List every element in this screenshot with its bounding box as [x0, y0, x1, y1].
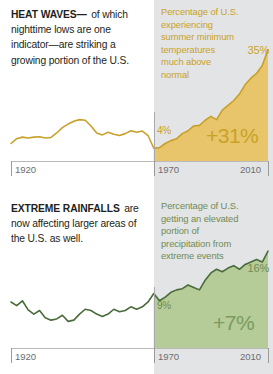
heat-kicker: HEAT WAVES— [11, 9, 87, 20]
rain-1970-divider [154, 287, 155, 348]
heat-axis-label-1920: 1920 [15, 164, 36, 175]
heat-axis-rule [11, 161, 269, 162]
rain-end-value-label: 16% [248, 262, 269, 274]
heat-tick-2010 [268, 161, 269, 176]
rain-axis-label-2010: 2010 [240, 351, 261, 362]
rain-change-callout: +7% [213, 311, 254, 335]
rain-tick-1920 [11, 348, 12, 363]
heat-axis: 1920 1970 2010 [0, 161, 273, 187]
rain-axis-rule [11, 348, 269, 349]
rain-caption: Percentage of U.S. getting an elevated p… [161, 200, 239, 263]
rain-axis: 1920 1970 2010 [0, 348, 273, 374]
rain-axis-label-1970: 1970 [158, 351, 179, 362]
heat-tick-1920 [11, 161, 12, 176]
rain-tick-1970 [154, 348, 155, 363]
rain-headline: EXTREME RAINFALLS are now affecting larg… [11, 200, 147, 246]
heat-1970-divider [154, 112, 155, 161]
heat-axis-label-2010: 2010 [240, 164, 261, 175]
heat-start-value-label: 4% [157, 125, 171, 136]
heat-axis-label-1970: 1970 [158, 164, 179, 175]
rain-kicker: EXTREME RAINFALLS [11, 203, 120, 214]
heat-tick-1970 [154, 161, 155, 176]
rain-start-value-label: 9% [157, 300, 171, 311]
heat-change-callout: +31% [206, 124, 258, 148]
heat-caption: Percentage of U.S. experiencing summer m… [161, 6, 239, 82]
extreme-rainfalls-panel: EXTREME RAINFALLS are now affecting larg… [0, 187, 273, 374]
rain-axis-label-1920: 1920 [15, 351, 36, 362]
heat-waves-panel: HEAT WAVES— of which nighttime lows are … [0, 0, 273, 187]
rain-tick-2010 [268, 348, 269, 363]
heat-end-value-label: 35% [248, 44, 269, 56]
heat-headline: HEAT WAVES— of which nighttime lows are … [11, 6, 147, 67]
